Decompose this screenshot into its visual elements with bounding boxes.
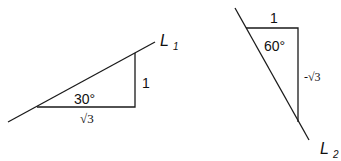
top-side-label: 1 xyxy=(270,10,278,26)
diagram-lines xyxy=(0,0,341,161)
angle-60-label: 60° xyxy=(264,38,285,54)
opposite-side-label: 1 xyxy=(142,75,150,91)
slope-diagram: L1 30° 1 √3 1 60° -√3 L2 xyxy=(0,0,341,161)
angle-30-label: 30° xyxy=(74,91,95,107)
label-l2: L2 xyxy=(320,140,338,160)
label-l1-letter: L xyxy=(160,32,169,49)
label-l2-subscript: 2 xyxy=(333,149,339,160)
adjacent-side-label: √3 xyxy=(80,111,94,127)
label-l2-letter: L xyxy=(320,140,329,157)
label-l1: L1 xyxy=(160,32,178,52)
label-l1-subscript: 1 xyxy=(173,41,179,52)
line-l1 xyxy=(8,42,155,122)
vertical-side-label: -√3 xyxy=(304,70,321,85)
